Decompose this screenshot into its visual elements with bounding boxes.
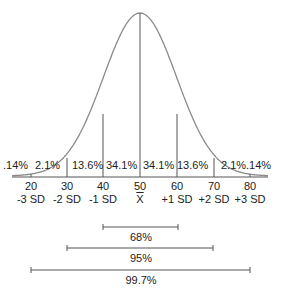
pct-label: 13.6%: [72, 159, 103, 171]
pct-label: 13.6%: [177, 159, 208, 171]
x-tick-label: 80: [244, 180, 256, 192]
pct-label: .14%: [246, 159, 271, 171]
sd-label: -1 SD: [89, 193, 117, 205]
x-tick-label: 60: [171, 180, 183, 192]
interval-label-99-7: 99.7%: [125, 274, 156, 286]
pct-label: .14%: [3, 159, 28, 171]
sd-label: +1 SD: [162, 193, 193, 205]
pct-label: 34.1%: [143, 159, 174, 171]
sd-dividers: [67, 13, 214, 177]
sd-label: -2 SD: [53, 193, 81, 205]
pct-label: 34.1%: [106, 159, 137, 171]
pct-label: 2.1%: [221, 159, 246, 171]
x-tick-label: 50: [134, 180, 146, 192]
x-tick-label: 20: [25, 180, 37, 192]
sd-label: +3 SD: [235, 193, 266, 205]
mean-label: X: [136, 193, 143, 205]
x-tick-label: 70: [208, 180, 220, 192]
interval-label-95: 95%: [130, 252, 152, 264]
chart-canvas: [0, 0, 281, 292]
x-tick-label: 30: [61, 180, 73, 192]
sd-label: +2 SD: [199, 193, 230, 205]
x-tick-label: 40: [97, 180, 109, 192]
interval-label-68: 68%: [130, 231, 152, 243]
sd-label: -3 SD: [17, 193, 45, 205]
pct-label: 2.1%: [35, 159, 60, 171]
